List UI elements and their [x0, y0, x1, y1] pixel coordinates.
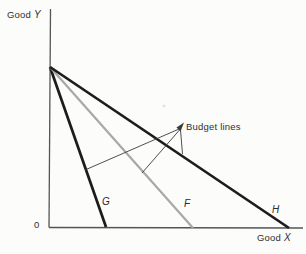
- diagram-canvas: [0, 0, 306, 254]
- budget-line-h: [50, 67, 289, 228]
- line-label-f: F: [184, 198, 190, 209]
- budget-lines-figure: Good Y 0 Budget lines G F H Good X: [0, 0, 306, 254]
- line-label-h: H: [272, 204, 279, 215]
- leader-line-to-h: [181, 130, 183, 154]
- x-axis-label-var: X: [284, 232, 291, 243]
- line-label-g: G: [102, 196, 110, 207]
- x-axis-line: [49, 228, 303, 229]
- y-axis-label: Good Y: [7, 9, 41, 20]
- print-speck: [163, 105, 166, 108]
- leader-arrowhead-icon: [177, 123, 185, 132]
- leader-line-to-g: [85, 129, 179, 170]
- annotation-label: Budget lines: [186, 121, 241, 132]
- y-axis-line: [49, 9, 51, 228]
- y-axis-label-text: Good: [7, 9, 34, 20]
- budget-line-g: [50, 67, 106, 227]
- x-axis-label: Good X: [257, 232, 291, 243]
- x-axis-label-text: Good: [257, 232, 284, 243]
- origin-label: 0: [34, 219, 39, 230]
- y-axis-label-var: Y: [34, 9, 41, 20]
